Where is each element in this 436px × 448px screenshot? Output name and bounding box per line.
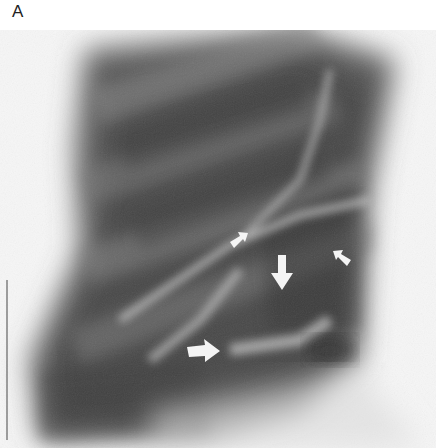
panel-label: A <box>12 2 23 22</box>
arrowhead-up-left-icon <box>331 248 353 268</box>
arrow-down-icon <box>270 255 294 291</box>
radiograph-image <box>0 30 436 448</box>
radiograph-svg <box>0 30 436 448</box>
arrow-right-icon <box>187 339 221 363</box>
arrowhead-up-right-icon <box>228 230 250 250</box>
